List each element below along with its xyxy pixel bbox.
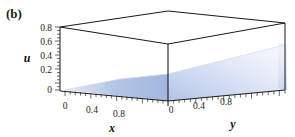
u-axis-ticks — [55, 27, 60, 90]
figure-panel-b: (b) — [0, 0, 295, 137]
x-tick-label-1: 0.4 — [86, 105, 98, 115]
u-tick-label-3: 0.2 — [40, 65, 52, 75]
x-tick-label-2: 0.8 — [113, 109, 125, 119]
x-tick-label-0: 0 — [63, 101, 68, 111]
y-axis-title: y — [228, 117, 236, 131]
y-tick-label-1: 0.4 — [193, 101, 205, 111]
surface-right-lobe — [168, 45, 285, 101]
u-tick-label-2: 0.4 — [40, 51, 52, 61]
surface-mesh — [65, 42, 287, 101]
surface-plot-3d: 0.8 0.6 0.4 0.2 0 u — [0, 0, 295, 137]
y-tick-label-2: 0.8 — [220, 97, 232, 107]
u-axis-title: u — [24, 51, 31, 65]
surface-right-wall-sheet — [278, 42, 287, 90]
u-tick-label-1: 0.6 — [40, 37, 52, 47]
u-tick-label-4: 0 — [47, 85, 52, 95]
x-axis-title: x — [108, 121, 115, 135]
box-top-face — [60, 11, 285, 44]
y-tick-label-0: 0 — [169, 105, 174, 115]
u-tick-label-0: 0.8 — [40, 23, 52, 33]
